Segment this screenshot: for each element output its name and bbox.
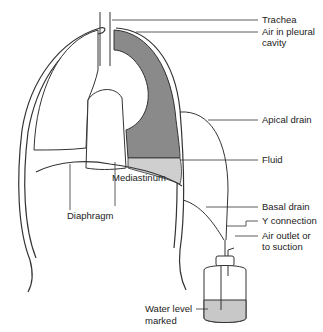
chest-drain-diagram (0, 0, 323, 332)
label-air-outlet-2: to suction (262, 242, 303, 252)
label-air-pleural-2: cavity (262, 38, 286, 48)
label-apical-drain: Apical drain (262, 115, 312, 125)
drain-tubes (180, 112, 234, 258)
label-y-connection: Y connection (262, 216, 317, 226)
label-air-outlet: Air outlet or (262, 231, 311, 241)
trachea (100, 12, 110, 66)
drainage-bottle (204, 256, 246, 323)
label-diaphragm: Diaphragm (67, 211, 113, 221)
label-water-level: Water level (145, 304, 192, 314)
label-mediastinum: Mediastinum (112, 173, 166, 183)
mediastinum (86, 90, 126, 170)
label-fluid: Fluid (262, 155, 283, 165)
label-basal-drain: Basal drain (262, 202, 310, 212)
label-water-level-2: marked (145, 316, 177, 326)
label-air-pleural: Air in pleural (262, 27, 315, 37)
label-trachea: Trachea (262, 15, 297, 25)
